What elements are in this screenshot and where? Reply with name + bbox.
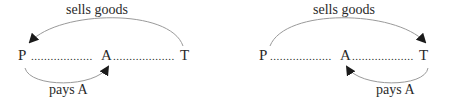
top-label: sells goods — [313, 3, 375, 17]
top-label: sells goods — [66, 3, 128, 17]
sells-goods-arrow-right — [270, 18, 425, 46]
pays-a-arrow-left — [25, 67, 108, 83]
node-t: T — [419, 48, 428, 63]
dotted-line: ................... — [270, 51, 340, 62]
node-t: T — [180, 48, 189, 63]
node-p: P — [259, 48, 267, 63]
sells-goods-arrow-left — [30, 18, 183, 46]
pays-a-arrow-right — [347, 67, 428, 83]
node-p: P — [18, 48, 26, 63]
dotted-line: ................... — [31, 51, 99, 62]
bottom-label: pays A — [49, 83, 88, 97]
dotted-line: ................... — [352, 51, 418, 62]
node-a: A — [101, 48, 112, 63]
dotted-line: ................... — [113, 51, 177, 62]
node-a: A — [340, 48, 351, 63]
bottom-label: pays A — [376, 83, 415, 97]
